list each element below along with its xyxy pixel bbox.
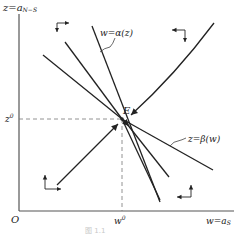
x-axis-label: w=aS [206,216,231,226]
trajectory-lower-2 [127,124,169,177]
y-axis-label: z=aN−S [2,2,37,13]
beta-curve-label: z=β(w) [187,134,221,144]
alpha-curve-label: w=α(z) [100,28,134,38]
trajectory-lower-1 [122,119,160,200]
lower-left-approach-line [57,124,118,185]
beta-curve [122,119,213,170]
upper-right-approach-curve [131,23,214,115]
direction-arrows-bottom-left [45,175,61,189]
beta-leader [170,138,186,146]
equilibrium-point [120,117,124,121]
direction-arrows-bottom-right [177,185,191,197]
w0-label: w0 [114,214,126,226]
equilibrium-label: E [122,105,131,116]
figure-caption: 图 1.1 [85,227,105,234]
direction-arrows-top-left [57,23,69,32]
origin-label: O [11,214,19,225]
z0-label: z0 [4,112,14,124]
alpha-leader [100,38,115,52]
direction-arrows [45,23,191,197]
direction-arrows-top-right [172,30,185,42]
phase-diagram: z=aN−S z0 O w0 w=aS E w=α(z) z=β(w) 图 1.… [0,0,239,234]
